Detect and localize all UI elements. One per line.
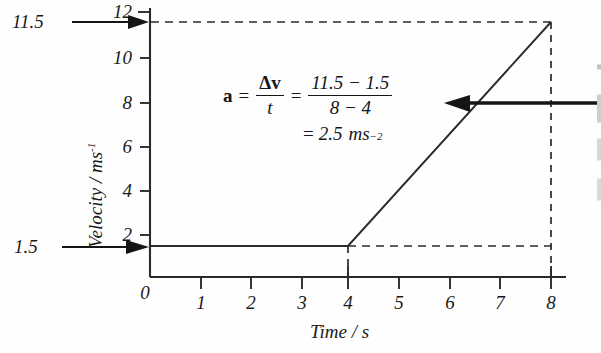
x-tick-label-1: 1 <box>189 293 213 312</box>
x-tick-label-8: 8 <box>539 293 563 312</box>
y-axis-title-exponent: -1 <box>85 143 97 152</box>
x-tick-label-7: 7 <box>488 293 512 312</box>
x-tick-label-6: 6 <box>438 293 462 312</box>
slope-pointer-arrow <box>444 95 597 112</box>
page-edge-artifact <box>597 60 601 220</box>
equation-denominator-values: 8 − 4 <box>327 96 374 119</box>
y-tick-label-10: 10 <box>98 48 132 67</box>
y-tick-label-12: 12 <box>98 2 132 21</box>
callout-label-1-5: 1.5 <box>14 237 38 256</box>
equation-fraction-delta-v-over-t: Δv t <box>256 72 283 119</box>
x-tick-label-0: 0 <box>133 283 157 302</box>
equation-numerator-values: 11.5 − 1.5 <box>308 72 392 96</box>
x-tick-label-4: 4 <box>336 293 360 312</box>
equation-result-unit: ms <box>342 123 369 145</box>
y-axis-ticks <box>138 12 150 235</box>
equation-result-value: 2.5 <box>319 123 343 145</box>
y-tick-label-8: 8 <box>98 93 132 112</box>
equation-line-2: = 2.5 ms−2 <box>222 123 394 145</box>
x-tick-label-2: 2 <box>239 293 263 312</box>
y-axis-title-text: Velocity / ms <box>85 152 106 248</box>
velocity-time-graph-figure: 12 10 8 6 4 2 0 1 2 3 4 5 6 7 8 11.5 1.5… <box>0 0 601 353</box>
equation-numerator-delta-v: Δv <box>256 72 283 96</box>
x-tick-label-5: 5 <box>387 293 411 312</box>
equation-equals-1: = <box>234 85 255 107</box>
y-axis-title: Velocity / ms-1 <box>86 143 105 248</box>
equation-equals-2: = <box>286 85 307 107</box>
x-axis-title: Time / s <box>310 322 369 341</box>
equation-line-1: a = Δv t = 11.5 − 1.5 8 − 4 <box>222 72 394 119</box>
equation-denominator-t: t <box>264 96 275 119</box>
x-tick-label-3: 3 <box>290 293 314 312</box>
equation-equals-3: = <box>298 123 319 145</box>
callout-label-11-5: 11.5 <box>12 12 44 31</box>
equation-symbol-a: a <box>222 85 234 107</box>
acceleration-equation: a = Δv t = 11.5 − 1.5 8 − 4 = 2.5 ms−2 <box>222 72 394 145</box>
equation-fraction-values: 11.5 − 1.5 8 − 4 <box>308 72 392 119</box>
